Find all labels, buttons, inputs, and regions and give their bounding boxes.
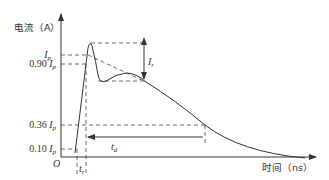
tick-010ip: 0.10 Ip bbox=[29, 143, 56, 156]
current-waveform-diagram: 电流（A） 时间（ns） O Ip 0.90 Ip 0.36 Ip 0.10 I… bbox=[0, 0, 329, 180]
x-axis-label: 时间（ns） bbox=[262, 162, 313, 173]
tick-090ip: 0.90 Ip bbox=[29, 58, 56, 71]
reference-lines bbox=[61, 43, 205, 174]
tick-036ip: 0.36 Ip bbox=[29, 119, 56, 132]
y-axis-label: 电流（A） bbox=[14, 22, 61, 33]
current-waveform bbox=[75, 43, 305, 158]
rise-time-label: tr bbox=[79, 163, 85, 176]
origin-label: O bbox=[53, 158, 60, 169]
decay-time-label: td bbox=[111, 141, 118, 154]
ringing-label: Ir bbox=[147, 56, 154, 69]
